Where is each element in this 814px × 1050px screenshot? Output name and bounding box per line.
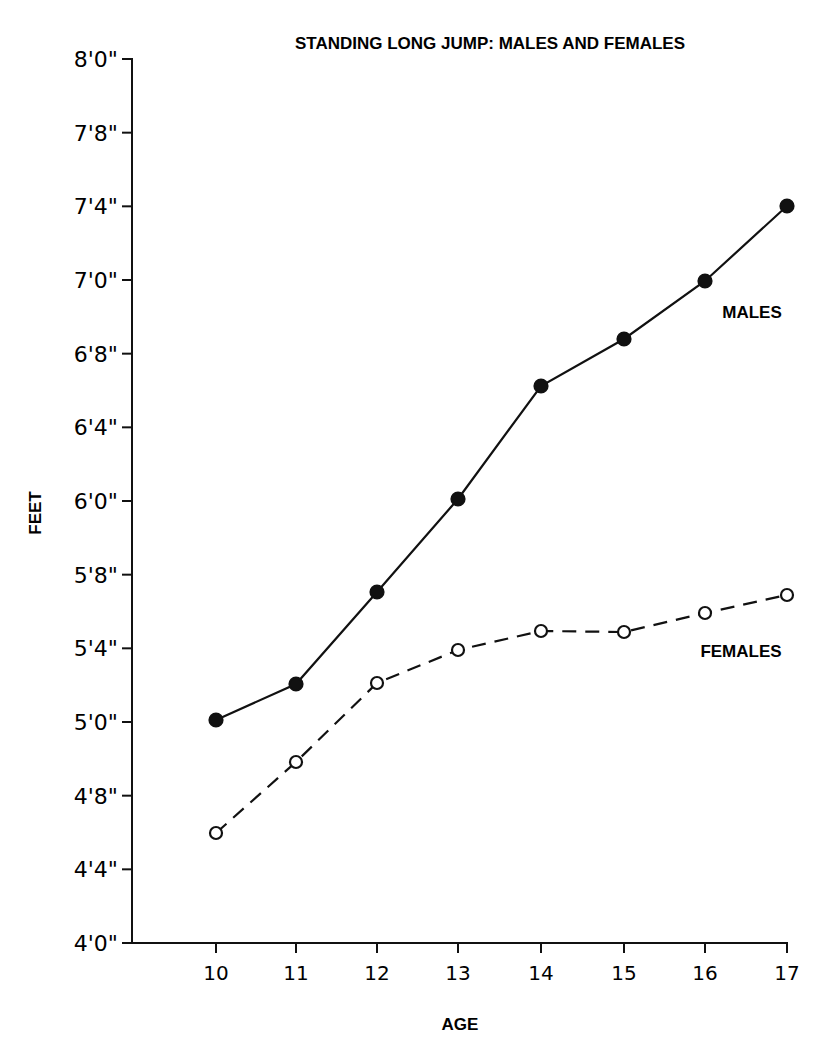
female-data-point	[210, 827, 222, 839]
x-tick-label: 12	[364, 961, 389, 985]
female-data-point	[781, 589, 793, 601]
y-tick-label: 7'8"	[74, 121, 118, 146]
line-chart: STANDING LONG JUMP: MALES AND FEMALES 4'…	[0, 0, 814, 1050]
x-tick-label: 17	[774, 961, 799, 985]
x-tick-label: 16	[692, 961, 717, 985]
female-data-point	[371, 677, 383, 689]
x-ticks: 1011121314151617	[203, 943, 799, 985]
y-tick-label: 7'4"	[74, 194, 118, 219]
y-tick-label: 4'8"	[74, 784, 118, 809]
male-data-point	[210, 714, 223, 727]
female-data-point	[452, 644, 464, 656]
y-tick-label: 4'4"	[74, 857, 118, 882]
male-data-point	[371, 586, 384, 599]
y-tick-label: 6'8"	[74, 342, 118, 367]
y-axis-label: FEET	[26, 491, 45, 535]
y-tick-label: 5'4"	[74, 636, 118, 661]
female-data-point	[618, 626, 630, 638]
x-tick-label: 14	[528, 961, 553, 985]
male-data-point	[535, 380, 548, 393]
male-data-point	[781, 200, 794, 213]
y-tick-label: 5'8"	[74, 563, 118, 588]
male-data-point	[618, 333, 631, 346]
x-tick-label: 10	[203, 961, 228, 985]
male-data-point	[290, 678, 303, 691]
males-label: MALES	[722, 303, 782, 322]
y-tick-label: 5'0"	[74, 710, 118, 735]
y-ticks: 4'0"4'4"4'8"5'0"5'4"5'8"6'0"6'4"6'8"7'0"…	[74, 47, 132, 956]
females-line	[216, 595, 787, 833]
x-axis-label: AGE	[442, 1015, 479, 1034]
females-label: FEMALES	[700, 642, 781, 661]
male-data-point	[452, 493, 465, 506]
y-tick-label: 4'0"	[74, 931, 118, 956]
x-tick-label: 11	[283, 961, 308, 985]
y-tick-label: 7'0"	[74, 268, 118, 293]
y-tick-label: 6'0"	[74, 489, 118, 514]
male-data-point	[699, 275, 712, 288]
x-tick-label: 15	[611, 961, 636, 985]
chart-title: STANDING LONG JUMP: MALES AND FEMALES	[295, 34, 685, 53]
y-tick-label: 6'4"	[74, 415, 118, 440]
female-data-point	[535, 625, 547, 637]
female-data-point	[699, 607, 711, 619]
series-females	[210, 589, 793, 839]
x-tick-label: 13	[445, 961, 470, 985]
female-data-point	[290, 756, 302, 768]
y-tick-label: 8'0"	[74, 47, 118, 72]
